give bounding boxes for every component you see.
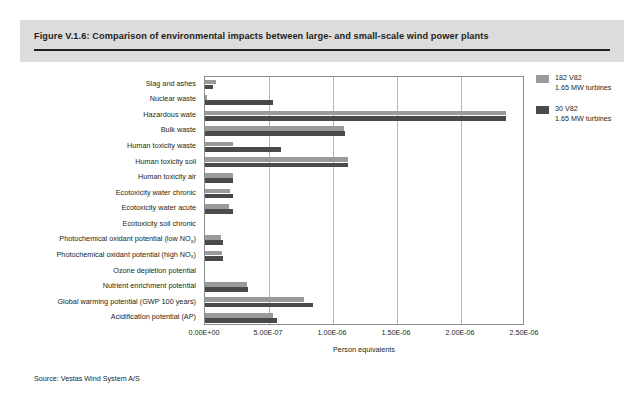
x-axis-tick-label: 1.00E-06 xyxy=(302,328,362,337)
bar-row xyxy=(205,248,523,264)
y-axis-label: Ecotoxicity soil chronic xyxy=(20,220,196,228)
bar-series-1 xyxy=(205,282,247,287)
bar-row xyxy=(205,170,523,186)
y-axis-label: Human toxicity air xyxy=(20,173,196,181)
title-divider xyxy=(34,49,610,51)
bar-series-2 xyxy=(205,147,281,152)
bar-series-2 xyxy=(205,131,345,136)
y-axis-label: Acidification potential (AP) xyxy=(20,313,196,321)
bar-series-1 xyxy=(205,251,222,256)
x-axis-tick-label: 2.00E-06 xyxy=(430,328,490,337)
bar-row xyxy=(205,186,523,202)
bar-row xyxy=(205,124,523,140)
y-axis-label: Photochemical oxidant potential (high NO… xyxy=(20,251,196,259)
plot-box xyxy=(204,76,524,325)
bar-series-2 xyxy=(205,116,506,121)
x-axis-tick-label: 1.50E-06 xyxy=(366,328,426,337)
chart-area: Slag and ashesNuclear wasteHazardous wat… xyxy=(20,62,624,368)
bar-series-1 xyxy=(205,80,216,85)
bar-series-1 xyxy=(205,173,233,178)
y-axis-label: Ecotoxicity water chronic xyxy=(20,189,196,197)
legend-item: 30 V821.65 MW turbines xyxy=(536,105,624,127)
x-axis-tick-label: 2.50E-06 xyxy=(494,328,554,337)
bar-series-1 xyxy=(205,111,506,116)
bar-series-2 xyxy=(205,163,348,168)
bar-series-1 xyxy=(205,189,230,194)
bar-series-2 xyxy=(205,287,248,292)
legend-swatch xyxy=(536,75,549,83)
bar-series-1 xyxy=(205,204,229,209)
figure-container: Figure V.1.6: Comparison of environmenta… xyxy=(20,20,624,393)
legend-item: 182 V821.65 MW turbines xyxy=(536,74,624,96)
x-axis-tick-labels: 0.00E+005.00E-071.00E-061.50E-062.00E-06… xyxy=(204,328,524,340)
bar-series-1 xyxy=(205,142,233,147)
bar-row xyxy=(205,279,523,295)
bar-series-1 xyxy=(205,126,344,131)
bar-row xyxy=(205,295,523,311)
source-note: Source: Vestas Wind System A/S xyxy=(34,374,140,383)
y-axis-label: Nutrient enrichment potential xyxy=(20,282,196,290)
bar-row xyxy=(205,139,523,155)
y-axis-label: Global warming potential (GWP 100 years) xyxy=(20,298,196,306)
legend-label: 182 V821.65 MW turbines xyxy=(555,73,611,93)
bar-row xyxy=(205,264,523,280)
bar-row xyxy=(205,93,523,109)
bar-series-2 xyxy=(205,194,233,199)
bar-series-2 xyxy=(205,256,223,261)
bar-series-1 xyxy=(205,95,207,100)
y-axis-label: Human toxicity soil xyxy=(20,158,196,166)
bar-row xyxy=(205,217,523,233)
bar-series-1 xyxy=(205,235,221,240)
chart-legend: 182 V821.65 MW turbines30 V821.65 MW tur… xyxy=(536,74,624,136)
bar-series-2 xyxy=(205,240,223,245)
y-axis-label: Slag and ashes xyxy=(20,80,196,88)
bar-series-2 xyxy=(205,100,273,105)
page-title: Figure V.1.6: Comparison of environmenta… xyxy=(34,31,489,41)
bar-row xyxy=(205,77,523,93)
y-axis-label: Photochemical oxidant potential (low NOx… xyxy=(20,235,196,243)
bar-row xyxy=(205,108,523,124)
y-axis-label: Ecotoxicity water acute xyxy=(20,204,196,212)
bar-series-1 xyxy=(205,313,273,318)
y-axis-label: Hazardous wate xyxy=(20,111,196,119)
bar-series-2 xyxy=(205,178,233,183)
y-axis-label: Bulk waste xyxy=(20,126,196,134)
x-axis-tick-label: 0.00E+00 xyxy=(174,328,234,337)
figure-title-band: Figure V.1.6: Comparison of environmenta… xyxy=(20,20,624,62)
x-axis-tick-label: 5.00E-07 xyxy=(238,328,298,337)
y-axis-category-labels: Slag and ashesNuclear wasteHazardous wat… xyxy=(20,76,200,325)
bar-rows xyxy=(205,77,523,324)
bar-series-1 xyxy=(205,157,348,162)
legend-label: 30 V821.65 MW turbines xyxy=(555,104,611,124)
y-axis-label: Ozone depletion potential xyxy=(20,267,196,275)
bar-series-2 xyxy=(205,318,277,323)
bar-series-1 xyxy=(205,297,304,302)
y-axis-label: Human toxicity waste xyxy=(20,142,196,150)
legend-swatch xyxy=(536,106,549,114)
bar-row xyxy=(205,155,523,171)
bar-row xyxy=(205,310,523,326)
y-axis-label: Nuclear waste xyxy=(20,95,196,103)
bar-row xyxy=(205,202,523,218)
x-axis-title: Person equivalents xyxy=(204,345,524,354)
bar-series-2 xyxy=(205,85,213,90)
bar-series-2 xyxy=(205,303,313,308)
bar-row xyxy=(205,233,523,249)
bar-series-2 xyxy=(205,209,233,214)
